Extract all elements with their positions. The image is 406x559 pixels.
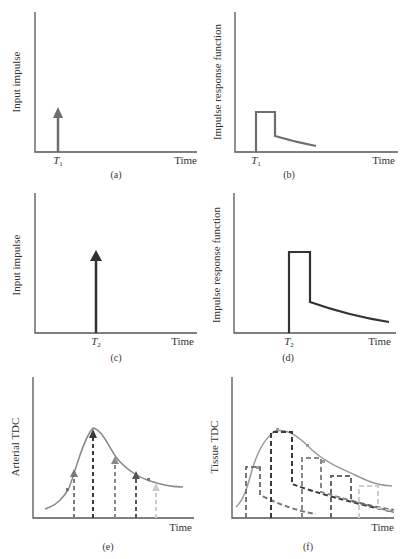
panel-caption: (f) <box>303 541 313 553</box>
x-axis-label: Time <box>171 335 194 347</box>
t1-marker: T1 <box>251 154 261 168</box>
sample-point <box>256 466 259 469</box>
sample-point <box>66 488 69 491</box>
sample-point <box>147 478 150 481</box>
y-axis-label: Input impulse <box>10 234 22 295</box>
x-axis-label: Time <box>368 335 391 347</box>
panel-caption: (d) <box>282 352 294 364</box>
panel-e: Arterial TDC Time (e) <box>9 377 194 553</box>
arrow-head-icon <box>53 107 63 118</box>
scaled-response-1 <box>246 467 316 518</box>
panel-d-axes <box>234 193 396 333</box>
y-axis-label: Impulse response function <box>210 206 222 323</box>
sample-point <box>276 428 279 431</box>
panel-d: Impulse response function T2 Time (d) <box>210 193 396 364</box>
x-axis-label: Time <box>169 521 192 533</box>
y-axis-label: Arterial TDC <box>9 418 21 477</box>
panel-f-axes <box>232 377 394 518</box>
panel-b: Impulse response function T1 Time (b) <box>211 12 398 181</box>
convolution-figure: Input impulse T1 Time (a) Impulse respon… <box>0 0 406 559</box>
x-axis-label: Time <box>174 154 197 166</box>
panel-caption: (b) <box>283 169 295 181</box>
x-axis-label: Time <box>371 521 394 533</box>
sample-point <box>322 460 325 463</box>
panel-c: Input impulse T2 Time (c) <box>10 193 197 364</box>
impulse-response-curve <box>289 252 389 333</box>
arrow-head-icon <box>90 250 102 261</box>
sample-point <box>306 444 309 447</box>
panel-caption: (c) <box>110 352 121 364</box>
arrow-head-icon <box>70 469 78 477</box>
panel-caption: (a) <box>110 169 121 181</box>
panel-caption: (e) <box>102 541 113 553</box>
scaled-response-5 <box>359 486 394 518</box>
panel-a: Input impulse T1 Time (a) <box>10 12 197 181</box>
panel-f: Tissue TDC Time (f) <box>208 377 394 553</box>
y-axis-label: Impulse response function <box>211 23 223 140</box>
y-axis-label: Tissue TDC <box>208 421 220 474</box>
t2-marker: T2 <box>91 335 101 349</box>
t2-marker: T2 <box>284 335 294 349</box>
panel-a-axes <box>35 12 197 152</box>
t1-marker: T1 <box>53 154 63 168</box>
y-axis-label: Input impulse <box>10 51 22 112</box>
panel-c-axes <box>35 193 197 333</box>
panel-e-axes <box>33 377 194 518</box>
x-axis-label: Time <box>372 154 395 166</box>
scaled-response-4 <box>331 476 394 518</box>
impulse-response-curve <box>256 112 316 152</box>
panel-b-axes <box>235 12 398 152</box>
